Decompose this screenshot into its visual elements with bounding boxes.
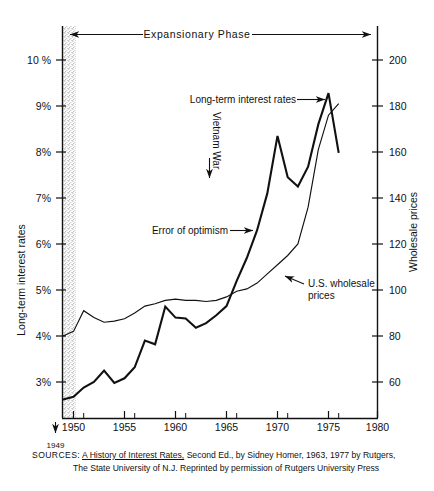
us-wholesale-prices-leader-icon [285,276,304,284]
right-tick-label-160: 160 [389,146,407,158]
us-wholesale-prices-annotation: U.S. wholesale prices [285,276,375,301]
left-tick-label-9: 9% [36,100,51,112]
series-wholesale-prices [63,104,339,336]
left-tick-label-4: 4% [36,330,51,342]
x-axis-tick-labels: 1950 1955 1960 1965 1970 1975 1980 [62,421,390,433]
right-tick-label-100: 100 [389,284,407,296]
error-of-optimism-label: Error of optimism [152,225,228,236]
left-tick-label-10: 10 % [27,54,51,66]
right-tick-label-180: 180 [389,100,407,112]
sources-line-2: The State University of N.J. Reprinted b… [73,462,379,475]
left-tick-label-6: 6% [36,238,51,250]
left-axis-tick-labels: 10 % 9% 8% 7% 6% 5% 4% 3% [27,54,51,388]
interest-rates-vs-wholesale-prices-chart: 10 % 9% 8% 7% 6% 5% 4% 3% Long-term inte… [0,0,434,491]
error-of-optimism-annotation: Error of optimism [152,225,253,236]
expansionary-phase-annotation: Expansionary Phase [70,28,371,40]
sources-title: A History of Interest Rates, [82,450,184,460]
long-term-interest-rates-annotation: Long-term interest rates [190,94,325,105]
expansionary-phase-label: Expansionary Phase [143,28,250,40]
x-tick-label-1980: 1980 [366,421,390,433]
right-axis-title: Wholesale prices [407,192,419,272]
right-tick-label-140: 140 [389,192,407,204]
right-tick-label-120: 120 [389,238,407,250]
x-tick-label-1955: 1955 [113,421,137,433]
left-axis-title: Long-term interest rates [15,224,27,335]
right-axis-tick-labels: 200 180 160 140 120 100 80 60 [389,54,407,388]
x-axis-ticks [74,411,378,418]
left-tick-label-5: 5% [36,284,51,296]
x-tick-label-1975: 1975 [317,421,341,433]
left-tick-label-8: 8% [36,146,51,158]
right-tick-label-200: 200 [389,54,407,66]
right-tick-label-80: 80 [389,330,401,342]
sources-line-1: SOURCES: A History of Interest Rates, Se… [32,449,395,462]
vietnam-war-annotation: Vietnam War [210,112,223,178]
x-tick-label-1960: 1960 [164,421,188,433]
left-tick-label-7: 7% [36,192,51,204]
us-wholesale-prices-label: U.S. wholesale [308,278,375,289]
chart-canvas: 10 % 9% 8% 7% 6% 5% 4% 3% Long-term inte… [0,0,434,491]
x-tick-label-1950: 1950 [62,421,86,433]
right-tick-label-60: 60 [389,376,401,388]
vietnam-war-label: Vietnam War [211,112,222,170]
us-wholesale-prices-label-line2: prices [308,290,335,301]
sources-rest: Second Ed., by Sidney Homer, 1963, 1977 … [187,450,396,460]
x-tick-label-1965: 1965 [215,421,239,433]
sources-label: SOURCES: [32,450,80,460]
series-long-term-interest-rates [63,93,339,399]
x-tick-label-1970: 1970 [266,421,290,433]
long-term-interest-rates-label: Long-term interest rates [190,94,296,105]
pre-1950-stipple-band [62,26,76,418]
left-tick-label-3: 3% [36,376,51,388]
